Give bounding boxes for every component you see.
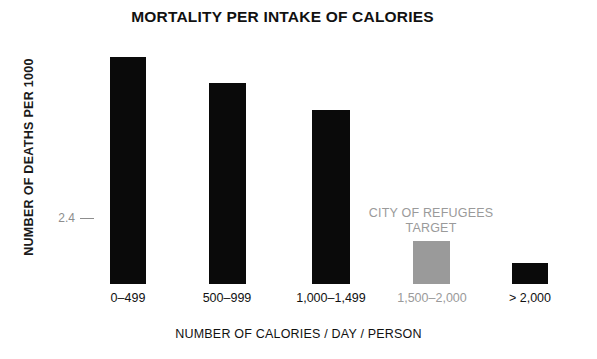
x-tick-label-0-499: 0–499 — [88, 291, 168, 305]
x-tick-label-500-999: 500–999 — [187, 291, 267, 305]
x-tick-label-over-2000: > 2,000 — [490, 291, 570, 305]
target-annotation-line-1: CITY OF REFUGEES — [341, 206, 521, 221]
bar-1500-2000-target[interactable] — [413, 241, 450, 284]
bar-0-499[interactable] — [110, 57, 146, 284]
plot-area: CITY OF REFUGEES TARGET 0–499 500–999 1,… — [0, 0, 597, 359]
bar-500-999[interactable] — [209, 83, 246, 284]
x-tick-label-1500-2000: 1,500–2,000 — [382, 291, 482, 305]
bar-over-2000[interactable] — [512, 263, 548, 284]
target-annotation-line-2: TARGET — [341, 221, 521, 236]
target-annotation: CITY OF REFUGEES TARGET — [341, 206, 521, 236]
bar-1000-1499[interactable] — [312, 110, 350, 284]
bar-chart-figure: MORTALITY PER INTAKE OF CALORIES NUMBER … — [0, 0, 597, 359]
x-tick-label-1000-1499: 1,000–1,499 — [281, 291, 381, 305]
x-axis-title: NUMBER OF CALORIES / DAY / PERSON — [0, 327, 597, 341]
